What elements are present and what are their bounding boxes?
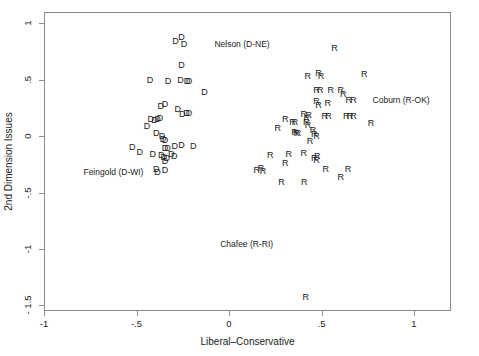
- annotation-label: Chafee (R-RI): [220, 239, 273, 249]
- data-point-d: D: [201, 87, 208, 96]
- data-point-r: R: [368, 119, 375, 128]
- y-axis-tick-label: 0: [23, 133, 33, 138]
- data-point-d: D: [165, 76, 172, 85]
- data-point-r: R: [318, 71, 325, 80]
- x-axis-tick: [44, 311, 45, 316]
- y-axis-title: 2nd Dimension Issues: [2, 12, 14, 311]
- data-point-d: D: [186, 77, 193, 86]
- data-point-r: R: [337, 173, 344, 182]
- data-point-r: R: [300, 149, 307, 158]
- data-point-r: R: [304, 71, 311, 80]
- data-point-r: R: [260, 166, 267, 175]
- data-point-r: R: [345, 164, 352, 173]
- y-axis-tick-label: 1: [23, 21, 33, 26]
- data-point-r: R: [278, 177, 285, 186]
- data-point-r: R: [301, 178, 308, 187]
- y-axis-tick: [39, 305, 44, 306]
- x-axis-tick-label: -1: [40, 319, 48, 329]
- data-point-d: D: [177, 76, 184, 85]
- data-point-d: D: [144, 122, 151, 131]
- data-point-d: D: [171, 152, 178, 161]
- data-point-r: R: [315, 100, 322, 109]
- x-axis-tick-label: -.5: [131, 319, 142, 329]
- x-axis-tick: [414, 311, 415, 316]
- data-point-d: D: [149, 150, 156, 159]
- data-point-r: R: [350, 112, 357, 121]
- data-point-r: R: [324, 99, 331, 108]
- data-point-r: R: [282, 115, 289, 124]
- data-point-r: R: [307, 137, 314, 146]
- data-point-d: D: [136, 147, 143, 156]
- data-point-r: R: [314, 151, 321, 160]
- data-point-r: R: [282, 158, 289, 167]
- data-point-r: R: [325, 112, 332, 121]
- data-point-d: D: [162, 100, 169, 109]
- data-point-d: D: [178, 61, 185, 70]
- y-axis-tick-label: - 1.5: [23, 296, 33, 315]
- data-point-r: R: [295, 128, 302, 137]
- scatter-plot-figure: 2nd Dimension Issues Liberal–Conservativ…: [0, 0, 479, 356]
- x-axis-tick: [229, 311, 230, 316]
- y-axis-tick-label: -1: [23, 245, 33, 253]
- x-axis-tick: [322, 311, 323, 316]
- y-axis-tick: [39, 193, 44, 194]
- data-point-r: R: [331, 43, 338, 52]
- annotation-label: Coburn (R-OK): [373, 95, 430, 105]
- data-point-r: R: [274, 123, 281, 132]
- x-axis-title: Liberal–Conservative: [44, 336, 451, 347]
- data-point-d: D: [157, 114, 164, 123]
- data-point-r: R: [361, 70, 368, 79]
- data-point-r: R: [350, 95, 357, 104]
- data-point-d: D: [154, 168, 161, 177]
- y-axis-tick-label: .5: [23, 76, 33, 84]
- x-axis-tick-label: .5: [318, 319, 326, 329]
- data-point-r: R: [323, 165, 330, 174]
- x-axis-tick: [137, 311, 138, 316]
- x-axis-tick-label: 0: [226, 319, 231, 329]
- y-axis-tick: [39, 80, 44, 81]
- data-point-d: D: [178, 141, 185, 150]
- plot-frame: DDDDDDDDDDDDDDDDDDDDDDDDDDDDDDDDDDDDDDDD…: [44, 12, 451, 311]
- data-point-d: D: [129, 143, 136, 152]
- data-point-r: R: [303, 293, 310, 302]
- y-axis-title-text: 2nd Dimension Issues: [3, 112, 14, 210]
- data-point-d: D: [147, 76, 154, 85]
- annotation-label: Feingold (D-WI): [83, 167, 143, 177]
- data-point-r: R: [328, 86, 335, 95]
- data-point-d: D: [186, 109, 193, 118]
- x-axis-tick-label: 1: [411, 319, 416, 329]
- y-axis-tick: [39, 136, 44, 137]
- annotation-label: Nelson (D-NE): [214, 39, 269, 49]
- data-point-r: R: [313, 131, 320, 140]
- data-point-d: D: [179, 109, 186, 118]
- data-point-d: D: [162, 166, 169, 175]
- y-axis-tick-label: -.5: [23, 187, 33, 198]
- data-point-d: D: [181, 40, 188, 49]
- y-axis-tick: [39, 249, 44, 250]
- data-point-d: D: [190, 141, 197, 150]
- data-point-r: R: [317, 85, 324, 94]
- data-point-r: R: [267, 150, 274, 159]
- y-axis-tick: [39, 23, 44, 24]
- plot-area: DDDDDDDDDDDDDDDDDDDDDDDDDDDDDDDDDDDDDDDD…: [45, 13, 450, 310]
